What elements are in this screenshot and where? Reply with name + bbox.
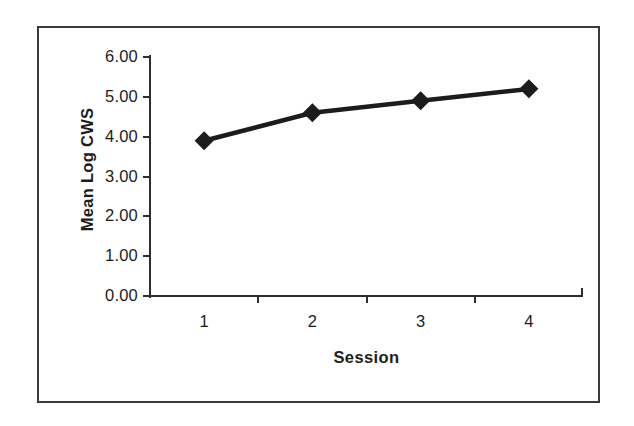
- x-axis-tick-label: 3: [401, 312, 441, 331]
- y-axis-tick-label-wrap: 0.00: [78, 286, 138, 304]
- y-axis-tick: [143, 136, 150, 138]
- figure-container: 0.001.002.003.004.005.006.00 1234 Mean L…: [0, 0, 634, 426]
- y-axis-tick-label: 6.00: [78, 47, 138, 66]
- x-axis-tick: [366, 296, 368, 303]
- y-axis-tick: [143, 255, 150, 257]
- x-axis-tick-label: 4: [509, 312, 549, 331]
- y-axis-tick-label-wrap: 6.00: [78, 47, 138, 65]
- x-axis-right-cap: [581, 288, 583, 296]
- x-axis-title: Session: [150, 348, 583, 367]
- x-axis-tick: [474, 296, 476, 303]
- y-axis-tick: [143, 56, 150, 58]
- x-axis-tick-label: 1: [184, 312, 224, 331]
- y-axis-tick: [143, 295, 150, 297]
- y-axis-tick-label: 0.00: [78, 286, 138, 305]
- x-axis-tick: [257, 296, 259, 303]
- x-axis-tick-label: 2: [292, 312, 332, 331]
- y-axis-tick: [143, 215, 150, 217]
- y-axis-tick: [143, 176, 150, 178]
- y-axis-tick: [143, 96, 150, 98]
- y-axis-title: Mean Log CWS: [78, 70, 97, 270]
